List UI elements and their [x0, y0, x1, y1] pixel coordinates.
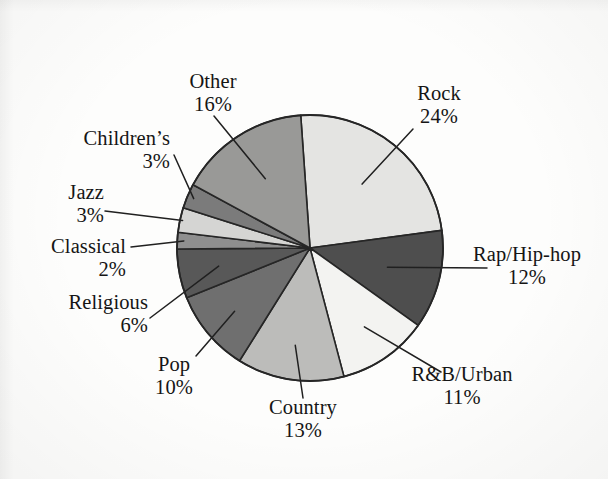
slice-label-rnb: R&B/Urban 11% — [386, 363, 538, 409]
slice-label-other-pct: 16% — [167, 93, 259, 116]
slice-leader-line — [174, 155, 194, 199]
slice-label-rock-pct: 24% — [393, 105, 485, 128]
slice-label-classical-pct: 2% — [14, 258, 126, 281]
slice-label-pop-pct: 10% — [136, 376, 212, 399]
slice-label-other-name: Other — [167, 70, 259, 93]
slice-leader-line — [105, 211, 183, 220]
slice-label-rap-pct: 12% — [448, 266, 606, 289]
slice-label-religious-name: Religious — [22, 291, 148, 314]
slice-label-rap: Rap/Hip-hop 12% — [448, 243, 606, 289]
slice-leader-line — [131, 241, 184, 247]
pie-chart-figure: Other 16% Rock 24% Children’s 3% Jazz 3%… — [0, 0, 608, 479]
pie-slices-group — [177, 115, 443, 381]
slice-label-religious-pct: 6% — [22, 314, 148, 337]
slice-label-rnb-pct: 11% — [386, 386, 538, 409]
slice-label-rock-name: Rock — [393, 82, 485, 105]
slice-label-other: Other 16% — [167, 70, 259, 116]
slice-label-country-pct: 13% — [246, 419, 360, 442]
slice-label-rap-name: Rap/Hip-hop — [448, 243, 606, 266]
slice-label-pop-name: Pop — [136, 353, 212, 376]
slice-label-country: Country 13% — [246, 396, 360, 442]
slice-label-childrens-name: Children’s — [34, 127, 170, 150]
slice-label-jazz-name: Jazz — [14, 181, 104, 204]
slice-label-childrens: Children’s 3% — [34, 127, 170, 173]
slice-label-country-name: Country — [246, 396, 360, 419]
slice-label-religious: Religious 6% — [22, 291, 148, 337]
slice-label-jazz-pct: 3% — [14, 204, 104, 227]
slice-label-childrens-pct: 3% — [34, 150, 170, 173]
slice-label-rnb-name: R&B/Urban — [386, 363, 538, 386]
slice-label-rock: Rock 24% — [393, 82, 485, 128]
pie-slice[interactable] — [301, 115, 442, 248]
slice-label-classical-name: Classical — [14, 235, 126, 258]
slice-label-pop: Pop 10% — [136, 353, 212, 399]
slice-label-classical: Classical 2% — [14, 235, 126, 281]
slice-label-jazz: Jazz 3% — [14, 181, 104, 227]
